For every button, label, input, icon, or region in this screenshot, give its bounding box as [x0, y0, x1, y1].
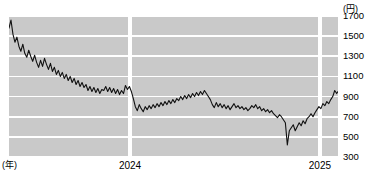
chart-screenshot: (円) 1700150013001100900700500300 (年) 202… — [0, 0, 378, 178]
plot-inner — [9, 16, 338, 157]
price-line-series — [9, 16, 338, 157]
plot-area — [9, 16, 338, 157]
y-tick-label: 1700 — [343, 11, 364, 21]
y-tick-label: 700 — [343, 112, 359, 122]
x-axis-caption: (年) — [2, 160, 17, 171]
y-tick-label: 500 — [343, 132, 359, 142]
x-tick-label: 2024 — [119, 160, 141, 171]
chart-title — [24, 0, 354, 2]
y-tick-label: 1100 — [343, 71, 363, 81]
y-axis-tick-labels: 1700150013001100900700500300 — [343, 16, 378, 157]
x-tick-label: 2025 — [309, 160, 331, 171]
y-tick-label: 1500 — [343, 31, 364, 41]
y-tick-label: 1300 — [343, 51, 364, 61]
y-tick-label: 300 — [343, 152, 359, 162]
y-tick-label: 900 — [343, 92, 359, 102]
